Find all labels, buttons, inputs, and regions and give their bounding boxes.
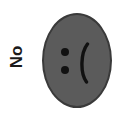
eye-upper-icon <box>61 48 69 56</box>
no-label: No <box>7 37 27 77</box>
frown-mouth-icon <box>75 42 93 84</box>
sad-face-oval <box>42 13 112 108</box>
image-canvas: No <box>0 0 126 126</box>
eye-lower-icon <box>61 66 69 74</box>
